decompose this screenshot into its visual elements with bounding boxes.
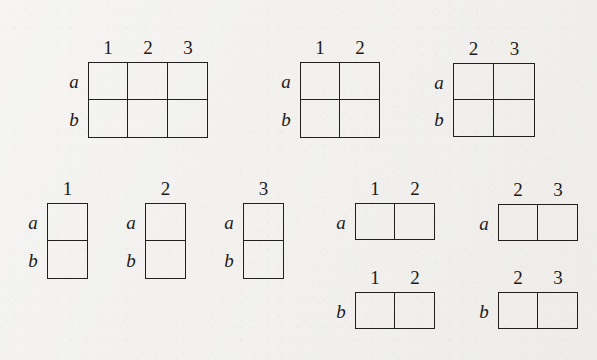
row-label: b — [476, 302, 492, 321]
column-label: 2 — [340, 38, 380, 57]
tableau-cell — [89, 63, 128, 100]
row-label: a — [278, 72, 294, 91]
tableau-cell — [301, 63, 340, 100]
column-label: 2 — [498, 180, 538, 199]
tableau-cell — [168, 63, 207, 100]
tableau-cell — [48, 241, 87, 278]
tableau-a-b-1-grid — [47, 203, 88, 279]
row-label: b — [431, 110, 447, 129]
tableau-cell — [168, 100, 207, 137]
tableau-cell — [454, 64, 494, 100]
tableau-cell — [454, 100, 494, 136]
tableau-cell — [356, 204, 395, 239]
column-label: 1 — [355, 268, 395, 287]
tableau-a-b-3-grid — [243, 203, 284, 279]
tableau-cell — [356, 293, 395, 328]
tableau-a-12-grid — [355, 203, 435, 240]
row-label: b — [221, 251, 237, 270]
tableau-cell — [244, 241, 283, 278]
row-label: b — [66, 110, 82, 129]
tableau-cell — [395, 204, 434, 239]
column-label: 2 — [395, 268, 435, 287]
tableau-cell — [499, 293, 538, 328]
column-label: 1 — [300, 38, 340, 57]
tableau-cell — [395, 293, 434, 328]
column-label: 3 — [168, 38, 208, 57]
tableau-a-b-2-grid — [145, 203, 186, 279]
row-label: a — [333, 213, 349, 232]
tableau-cell — [538, 293, 577, 328]
row-label: a — [66, 72, 82, 91]
row-label: b — [278, 110, 294, 129]
tableau-b-23-grid — [498, 292, 578, 329]
tableau-cell — [494, 100, 534, 136]
tableau-a-b-123-grid — [88, 62, 208, 138]
row-label: a — [25, 213, 41, 232]
row-label: a — [431, 73, 447, 92]
row-label: a — [221, 213, 237, 232]
tableau-cell — [146, 241, 185, 278]
row-label: a — [476, 214, 492, 233]
tableau-cell — [146, 204, 185, 241]
row-label: b — [333, 302, 349, 321]
tableau-cell — [499, 205, 538, 240]
column-label: 1 — [355, 179, 395, 198]
tableau-cell — [128, 100, 167, 137]
tableau-cell — [340, 63, 379, 100]
column-label: 2 — [498, 268, 538, 287]
column-label: 3 — [243, 179, 284, 198]
tableau-cell — [244, 204, 283, 241]
row-label: b — [25, 251, 41, 270]
column-label: 1 — [88, 38, 128, 57]
column-label: 3 — [494, 39, 535, 58]
column-label: 2 — [395, 179, 435, 198]
column-label: 2 — [145, 179, 186, 198]
tableau-a-23-grid — [498, 204, 578, 241]
tableau-cell — [48, 204, 87, 241]
row-label: a — [123, 213, 139, 232]
tableau-cell — [340, 100, 379, 137]
tableau-a-b-12-grid — [300, 62, 380, 138]
column-label: 3 — [538, 180, 578, 199]
tableau-cell — [89, 100, 128, 137]
column-label: 2 — [128, 38, 168, 57]
row-label: b — [123, 251, 139, 270]
tableau-cell — [128, 63, 167, 100]
tableau-cell — [301, 100, 340, 137]
column-label: 3 — [538, 268, 578, 287]
tableau-cell — [494, 64, 534, 100]
tableau-cell — [538, 205, 577, 240]
column-label: 2 — [453, 39, 494, 58]
tableau-a-b-23-grid — [453, 63, 535, 137]
column-label: 1 — [47, 179, 88, 198]
tableau-b-12-grid — [355, 292, 435, 329]
